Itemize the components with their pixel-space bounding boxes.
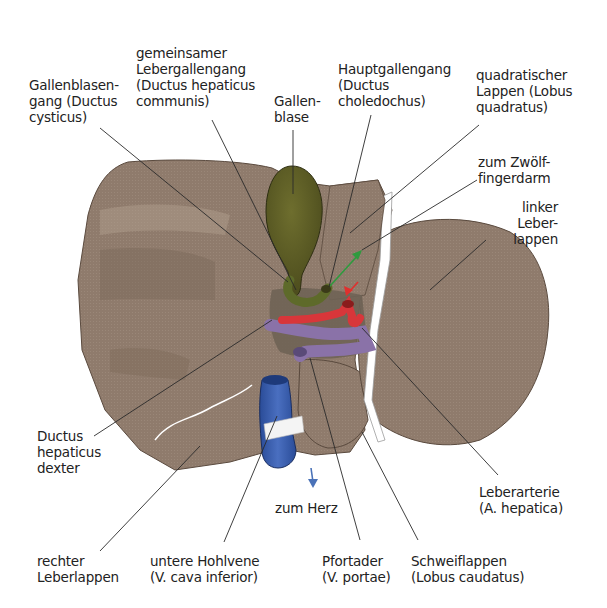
- label-to-heart: zum Herz: [275, 500, 338, 516]
- label-lobus-quadratus: quadratischer Lappen (Lobus quadratus): [476, 67, 572, 115]
- label-right-liver-lobe: rechter Leberlappen: [37, 553, 119, 585]
- label-vena-cava-inferior: untere Hohlvene (V. cava inferior): [150, 553, 259, 585]
- label-ductus-cysticus: Gallenblasen- gang (Ductus cysticus): [29, 77, 119, 125]
- label-gallbladder: Gallen- blase: [274, 93, 321, 125]
- label-left-liver-lobe: linker Leber- lappen: [508, 199, 558, 247]
- label-ductus-hepaticus-dexter: Ductus hepaticus dexter: [37, 428, 101, 476]
- label-lobus-caudatus: Schweiflappen (Lobus caudatus): [411, 553, 524, 585]
- arrow-to-heart-icon: [308, 468, 318, 488]
- label-to-duodenum: zum Zwölf- fingerdarm: [478, 154, 551, 186]
- label-ductus-hepaticus-communis: gemeinsamer Lebergallengang (Ductus hepa…: [136, 45, 255, 109]
- caudate-lobe: [298, 360, 368, 449]
- label-ductus-choledochus: Hauptgallengang (Ductus choledochus): [338, 61, 451, 109]
- label-portal-vein: Pfortader (V. portae): [322, 553, 391, 585]
- label-hepatic-artery: Leberarterie (A. hepatica): [479, 484, 563, 516]
